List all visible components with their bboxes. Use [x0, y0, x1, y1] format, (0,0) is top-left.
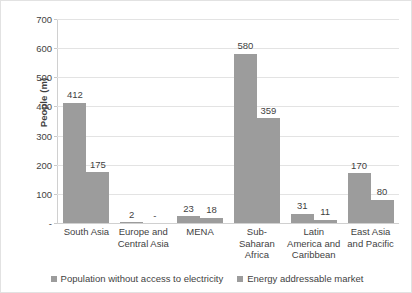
bar-slot: 2: [120, 19, 143, 223]
bar-group: 412175: [58, 19, 115, 223]
chart-legend: Population without access to electricity…: [1, 273, 412, 284]
bar-value-label: 11: [320, 207, 330, 217]
plot-area: -100200300400500600700 4121752-231858035…: [57, 19, 399, 223]
bar[interactable]: [348, 173, 371, 223]
bar-slot: 170: [348, 19, 371, 223]
bar-slot: 80: [371, 19, 394, 223]
chart-container: People (m) -100200300400500600700 412175…: [0, 0, 412, 293]
bar[interactable]: [234, 54, 257, 223]
bar-group: 580359: [228, 19, 285, 223]
bar-slot: 31: [291, 19, 314, 223]
x-axis-label: Latin America and Caribbean: [285, 226, 342, 261]
y-tick-mark: [54, 48, 57, 49]
y-tick-mark: [54, 194, 57, 195]
y-tick-label: 100: [36, 188, 52, 199]
bar[interactable]: [63, 103, 86, 223]
bar-value-label: 170: [351, 161, 367, 171]
y-tick-mark: [54, 165, 57, 166]
bar-value-label: 23: [183, 204, 194, 214]
y-tick-label: -: [49, 218, 52, 229]
bar-pair: 3111: [285, 19, 342, 223]
bar[interactable]: [120, 222, 143, 223]
bar-slot: 580: [234, 19, 257, 223]
legend-label: Energy addressable market: [247, 273, 363, 284]
legend-label: Population without access to electricity: [61, 273, 224, 284]
bar-slot: 412: [63, 19, 86, 223]
bar[interactable]: [314, 220, 337, 223]
y-tick-label: 200: [36, 159, 52, 170]
legend-swatch-icon: [51, 276, 57, 282]
bar-group: 3111: [285, 19, 342, 223]
bar-group: 2318: [172, 19, 229, 223]
x-axis-label: Sub-Saharan Africa: [228, 226, 285, 261]
y-tick-label: 400: [36, 101, 52, 112]
bar-group: 2-: [115, 19, 172, 223]
y-tick-mark: [54, 223, 57, 224]
x-axis-label: East Asia and Pacific: [342, 226, 399, 261]
bar-value-label: -: [153, 211, 156, 221]
bar[interactable]: [257, 118, 280, 223]
y-tick-label: 500: [36, 72, 52, 83]
y-tick-label: 600: [36, 43, 52, 54]
legend-swatch-icon: [237, 276, 243, 282]
legend-item[interactable]: Population without access to electricity: [51, 273, 224, 284]
bar-pair: 2318: [172, 19, 229, 223]
bar-value-label: 2: [129, 210, 134, 220]
bar-value-label: 31: [297, 201, 308, 211]
bar-groups: 4121752-2318580359311117080: [58, 19, 399, 223]
legend-item[interactable]: Energy addressable market: [237, 273, 363, 284]
bar[interactable]: [200, 218, 223, 223]
bar-value-label: 175: [90, 160, 106, 170]
y-tick-mark: [54, 106, 57, 107]
x-axis-label: South Asia: [58, 226, 115, 261]
gridline: -: [57, 223, 399, 224]
bar-pair: 580359: [228, 19, 285, 223]
bar-pair: 2-: [115, 19, 172, 223]
bar-value-label: 18: [206, 205, 217, 215]
bar-pair: 412175: [58, 19, 115, 223]
bar[interactable]: [371, 200, 394, 223]
bar-slot: 175: [86, 19, 109, 223]
bar-slot: 18: [200, 19, 223, 223]
bar-value-label: 580: [237, 41, 253, 51]
bar-slot: -: [143, 19, 166, 223]
x-axis-category-labels: South AsiaEurope and Central AsiaMENASub…: [58, 226, 399, 261]
y-tick-label: 700: [36, 14, 52, 25]
bar-group: 17080: [342, 19, 399, 223]
y-tick-mark: [54, 136, 57, 137]
x-axis-label: Europe and Central Asia: [115, 226, 172, 261]
y-tick-mark: [54, 19, 57, 20]
bar[interactable]: [291, 214, 314, 223]
bar-value-label: 359: [260, 106, 276, 116]
bar-pair: 17080: [342, 19, 399, 223]
bar-slot: 11: [314, 19, 337, 223]
bar-slot: 359: [257, 19, 280, 223]
y-tick-label: 300: [36, 130, 52, 141]
bar[interactable]: [177, 216, 200, 223]
bar[interactable]: [86, 172, 109, 223]
bar-value-label: 80: [377, 187, 388, 197]
bar-value-label: 412: [67, 90, 83, 100]
x-axis-label: MENA: [172, 226, 229, 261]
y-tick-mark: [54, 77, 57, 78]
bar-slot: 23: [177, 19, 200, 223]
